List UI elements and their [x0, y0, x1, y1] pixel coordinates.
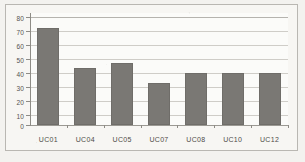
bar-uc07[interactable] — [148, 83, 170, 125]
bars-layer — [30, 13, 288, 125]
bar-slot-uc10 — [214, 13, 251, 125]
x-tick-mark-5 — [214, 125, 215, 128]
x-axis-category-labels: UC01 UC04 UC05 UC07 UC08 UC10 UC12 — [30, 135, 288, 149]
x-label-uc01: UC01 — [39, 135, 58, 144]
bar-slot-uc12 — [251, 13, 288, 125]
y-tick-label-10: 10 — [2, 113, 24, 120]
bar-uc12[interactable] — [259, 73, 281, 126]
bar-slot-uc08 — [177, 13, 214, 125]
x-label-uc08: UC08 — [186, 135, 205, 144]
bar-slot-uc01 — [30, 13, 67, 125]
x-tick-mark-2 — [104, 125, 105, 128]
y-tick-label-50: 50 — [2, 57, 24, 64]
gridline-baseline-0 — [30, 125, 288, 126]
bar-uc04[interactable] — [74, 68, 96, 125]
bar-slot-uc05 — [104, 13, 141, 125]
chart-figure: 80 70 60 50 40 30 20 10 0 — [0, 0, 305, 162]
x-tick-mark-4 — [177, 125, 178, 128]
bar-slot-uc04 — [67, 13, 104, 125]
y-tick-label-80: 80 — [2, 15, 24, 22]
bar-uc01[interactable] — [37, 28, 59, 125]
y-tick-label-70: 70 — [2, 29, 24, 36]
bar-uc05[interactable] — [111, 63, 133, 125]
x-label-uc04: UC04 — [76, 135, 95, 144]
bar-slot-uc07 — [141, 13, 178, 125]
y-tick-label-40: 40 — [2, 71, 24, 78]
x-tick-mark-6 — [251, 125, 252, 128]
y-tick-label-0: 0 — [2, 123, 24, 130]
bar-uc08[interactable] — [185, 73, 207, 125]
y-axis-tick-labels: 80 70 60 50 40 30 20 10 0 — [0, 0, 24, 162]
bar-uc10[interactable] — [222, 73, 244, 125]
x-label-uc10: UC10 — [223, 135, 242, 144]
x-tick-mark-1 — [67, 125, 68, 128]
y-tick-label-20: 20 — [2, 99, 24, 106]
x-label-uc12: UC12 — [260, 135, 279, 144]
x-tick-mark-3 — [141, 125, 142, 128]
x-tick-mark-7 — [288, 125, 289, 128]
y-tick-label-30: 30 — [2, 85, 24, 92]
x-label-uc05: UC05 — [113, 135, 132, 144]
y-tick-label-60: 60 — [2, 43, 24, 50]
x-label-uc07: UC07 — [149, 135, 168, 144]
